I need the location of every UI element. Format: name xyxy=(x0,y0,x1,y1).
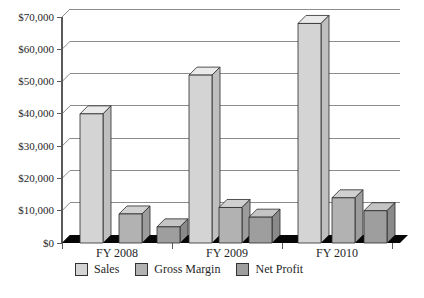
gridline-connector xyxy=(62,41,70,49)
legend-swatch-sales xyxy=(75,263,88,276)
gridline-connector xyxy=(62,9,70,17)
bar-net-profit-fy-2008 xyxy=(157,227,180,243)
bar-sales-fy-2008-side xyxy=(103,106,111,243)
bar-sales-fy-2010 xyxy=(298,23,321,243)
gridline-connector xyxy=(62,106,70,114)
gridline-connector xyxy=(62,138,70,146)
legend-swatch-gross-margin xyxy=(135,263,148,276)
bar-net-profit-fy-2010 xyxy=(364,211,387,243)
legend-item-sales: Sales xyxy=(75,262,119,277)
y-axis-label: $40,000 xyxy=(18,107,54,119)
gridline-connector xyxy=(62,170,70,178)
legend-label-gross-margin: Gross Margin xyxy=(154,262,220,277)
gridline-connector xyxy=(62,203,70,211)
x-axis-label-fy-2008: FY 2008 xyxy=(96,246,138,260)
legend-label-sales: Sales xyxy=(94,262,119,277)
legend-swatch-net-profit xyxy=(236,263,249,276)
y-axis-label: $10,000 xyxy=(18,204,54,216)
bar-gross-margin-fy-2010-side xyxy=(355,190,363,243)
chart-area: $0$10,000$20,000$30,000$40,000$50,000$60… xyxy=(0,0,424,298)
bar-gross-margin-fy-2010 xyxy=(332,198,355,243)
x-axis-label-fy-2009: FY 2009 xyxy=(206,246,248,260)
y-axis-label: $50,000 xyxy=(18,75,54,87)
legend: SalesGross MarginNet Profit xyxy=(75,262,303,277)
bar-sales-fy-2010-side xyxy=(321,15,329,243)
y-axis-label: $70,000 xyxy=(18,11,54,23)
y-axis-label: $20,000 xyxy=(18,172,54,184)
bar-net-profit-fy-2009 xyxy=(249,217,272,243)
legend-item-net-profit: Net Profit xyxy=(236,262,303,277)
legend-item-gross-margin: Gross Margin xyxy=(135,262,220,277)
y-axis-label: $0 xyxy=(43,237,55,249)
x-axis-label-fy-2010: FY 2010 xyxy=(316,246,358,260)
bar-sales-fy-2008 xyxy=(80,114,103,243)
bar-gross-margin-fy-2008 xyxy=(119,214,142,243)
y-axis-label: $60,000 xyxy=(18,43,54,55)
gridline-connector xyxy=(62,74,70,82)
y-axis-label: $30,000 xyxy=(18,140,54,152)
bar-sales-fy-2009 xyxy=(189,75,212,243)
bar-gross-margin-fy-2009 xyxy=(219,207,242,243)
legend-label-net-profit: Net Profit xyxy=(255,262,303,277)
bar-chart-3d: $0$10,000$20,000$30,000$40,000$50,000$60… xyxy=(0,0,424,298)
